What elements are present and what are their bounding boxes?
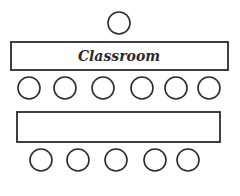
seat — [18, 77, 40, 99]
teacher-seat — [108, 12, 130, 34]
front-table-label: Classroom — [78, 48, 160, 64]
seat — [67, 149, 89, 171]
seat — [144, 149, 166, 171]
seat — [30, 149, 52, 171]
seat — [92, 77, 114, 99]
seat — [177, 149, 199, 171]
seat — [165, 77, 187, 99]
seat-row-2 — [30, 149, 199, 171]
seat — [198, 77, 220, 99]
seat — [131, 77, 153, 99]
classroom-seating-diagram: Classroom — [0, 0, 240, 196]
seat-row-1 — [18, 77, 220, 99]
seat — [105, 149, 127, 171]
seat — [54, 77, 76, 99]
back-table — [17, 112, 220, 142]
